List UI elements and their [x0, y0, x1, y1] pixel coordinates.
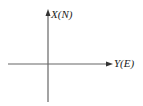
vertical-axis-label: X(N): [51, 8, 72, 20]
arrowhead-right-icon: [106, 62, 113, 67]
horizontal-axis-label: Y(E): [114, 57, 134, 69]
arrowhead-up-icon: [46, 9, 51, 16]
